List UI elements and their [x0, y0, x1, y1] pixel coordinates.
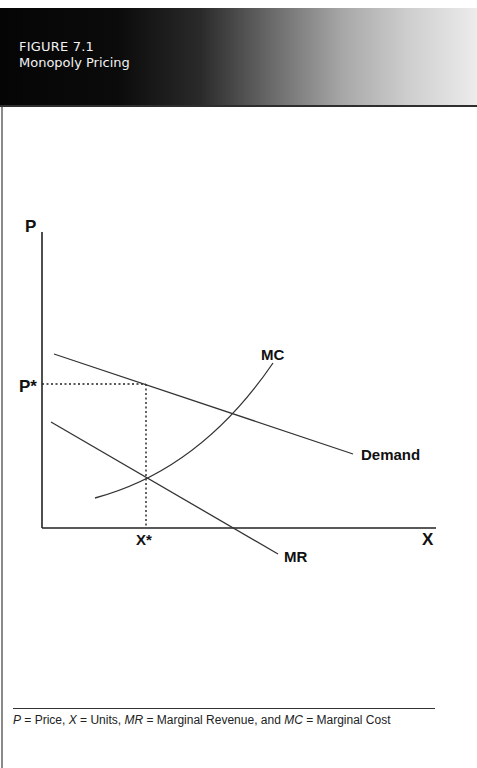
x-star-label: X*: [136, 531, 152, 548]
footnote-x-definition: = Units,: [77, 713, 125, 727]
demand-label: Demand: [361, 446, 420, 463]
footnote-mr-symbol: MR: [124, 713, 143, 727]
mr-label: MR: [284, 548, 307, 565]
footnote-p-symbol: P: [13, 713, 21, 727]
x-axis-label: X: [422, 530, 434, 549]
footnote-mc-symbol: MC: [284, 713, 303, 727]
y-axis-label: P: [25, 217, 36, 236]
mc-curve: [95, 363, 273, 498]
footnote-divider: [13, 708, 435, 709]
footnote: P = Price, X = Units, MR = Marginal Reve…: [13, 713, 391, 727]
footnote-mc-definition: = Marginal Cost: [303, 713, 391, 727]
monopoly-pricing-chart: P X P* X* MC Demand MR: [0, 0, 477, 768]
p-star-label: P*: [19, 377, 37, 396]
demand-curve: [54, 354, 353, 454]
footnote-mr-definition: = Marginal Revenue, and: [143, 713, 284, 727]
mc-label: MC: [261, 346, 284, 363]
footnote-x-symbol: X: [69, 713, 77, 727]
footnote-p-definition: = Price,: [21, 713, 69, 727]
mr-curve: [51, 422, 278, 554]
